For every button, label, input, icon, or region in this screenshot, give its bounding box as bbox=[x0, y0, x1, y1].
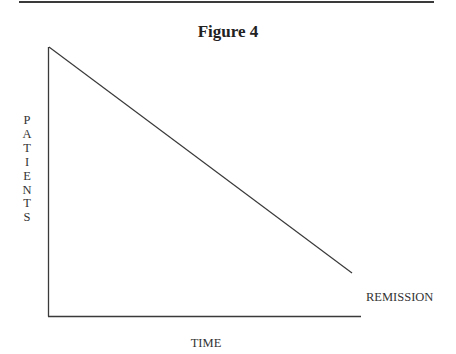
ylabel-letter: E bbox=[20, 170, 34, 184]
ylabel-letter: N bbox=[20, 184, 34, 198]
patients-line bbox=[49, 47, 352, 273]
ylabel-letter: T bbox=[20, 197, 34, 211]
ylabel-letter: T bbox=[20, 142, 34, 156]
ylabel-letter: I bbox=[20, 156, 34, 170]
ylabel-letter: A bbox=[20, 128, 34, 142]
ylabel-letter: S bbox=[20, 211, 34, 225]
y-axis-label: P A T I E N T S bbox=[20, 114, 34, 225]
remission-annotation: REMISSION bbox=[366, 290, 433, 305]
ylabel-letter: P bbox=[20, 114, 34, 128]
x-axis-label: TIME bbox=[180, 336, 232, 351]
